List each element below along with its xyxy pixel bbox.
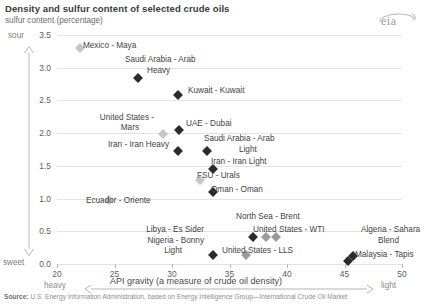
x-axis-tick-label: 45: [325, 269, 365, 279]
data-point-label: Oman - Oman: [211, 185, 263, 195]
data-point-label: UAE - Dubai: [186, 119, 232, 129]
data-point-label: Heavy: [147, 66, 170, 76]
data-point-label: Saudi Arabia - Arab: [204, 134, 275, 144]
data-point-label: Mexico - Maya: [83, 41, 136, 51]
data-point-label: Ecuador - Oriente: [86, 196, 151, 206]
data-point-marker[interactable]: [202, 146, 212, 156]
x-axis-tick: [402, 264, 403, 268]
x-axis-light-label: light: [381, 281, 396, 290]
eia-logo-text: eia: [381, 14, 397, 29]
x-axis-tick: [287, 264, 288, 268]
y-axis-tick-label: 0.5: [5, 226, 51, 236]
eia-logo: eia: [378, 10, 418, 30]
x-axis-tick: [345, 264, 346, 268]
gridline-y: [57, 100, 402, 101]
gridline-y: [57, 68, 402, 69]
y-axis-tick-label: 2.5: [5, 95, 51, 105]
data-point-label: Light: [239, 145, 257, 155]
source-prefix: Source:: [4, 293, 29, 300]
x-axis-tick: [57, 264, 58, 268]
data-point-marker[interactable]: [133, 73, 143, 83]
data-point-label: Iran - Iran Heavy: [108, 140, 169, 150]
chart-canvas: Density and sulfur content of selected c…: [0, 0, 431, 305]
data-point-label: Blend: [378, 236, 399, 246]
source-note: Source: U.S. Energy Information Administ…: [4, 293, 347, 300]
data-point-label: Algeria - Sahara: [361, 225, 420, 235]
y-axis-tick-label: 1.0: [5, 194, 51, 204]
y-axis-direction-arrow-icon: [22, 45, 36, 257]
y-axis-tick-label: 1.5: [5, 161, 51, 171]
data-point-label: Iran - Iran Light: [211, 157, 267, 167]
x-axis-tick: [230, 264, 231, 268]
x-axis-tick-label: 20: [37, 269, 77, 279]
y-axis-tick-label: 3.5: [5, 30, 51, 40]
gridline-y: [57, 35, 402, 36]
data-point-label: Light: [164, 246, 182, 256]
data-point-label: United States - WTI: [253, 225, 324, 235]
data-point-label: North Sea - Brent: [236, 212, 300, 222]
y-axis-unit-label: sulfur content (percentage): [5, 16, 103, 25]
x-axis-tick: [172, 264, 173, 268]
x-axis-heavy-label: heavy: [44, 281, 66, 290]
data-point-label: FSU - Urals: [197, 171, 240, 181]
data-point-marker[interactable]: [158, 129, 168, 139]
data-point-label: Malaysia - Tapis: [355, 250, 414, 260]
x-axis-tick-label: 25: [95, 269, 135, 279]
y-axis-tick-label: 0.0: [5, 259, 51, 269]
data-point-marker[interactable]: [173, 146, 183, 156]
source-text: U.S. Energy Information Administration, …: [29, 293, 348, 300]
data-point-label: Nigeria - Bonny: [148, 236, 204, 246]
y-axis-tick-label: 3.0: [5, 63, 51, 73]
x-axis-tick-label: 40: [267, 269, 307, 279]
x-axis-title: API gravity (a measure of crude oil dens…: [110, 276, 282, 286]
x-axis-tick-label: 50: [382, 269, 422, 279]
page-title: Density and sulfur content of selected c…: [5, 3, 230, 14]
data-point-label: United States - LLS: [222, 246, 293, 256]
data-point-label: Saudi Arabia - Arab: [125, 55, 196, 65]
x-axis-tick-label: 35: [210, 269, 250, 279]
data-point-label: United States -: [100, 113, 154, 123]
gridline-y: [57, 231, 402, 232]
data-point-marker[interactable]: [208, 250, 218, 260]
data-point-label: Mars: [121, 123, 139, 133]
data-point-marker[interactable]: [173, 90, 183, 100]
data-point-label: Libya - Es Sider: [146, 225, 204, 235]
x-axis-tick: [115, 264, 116, 268]
data-point-label: Kuwait - Kuwait: [188, 86, 244, 96]
x-axis-tick-label: 30: [152, 269, 192, 279]
y-axis-tick-label: 2.0: [5, 128, 51, 138]
